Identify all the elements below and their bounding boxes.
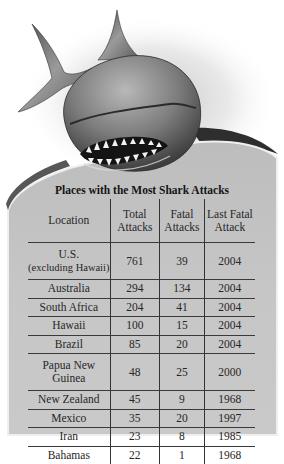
table-row: Brazil 85 20 2004 [28,335,255,354]
cell-location: New Zealand [28,391,110,410]
table-row: Bahamas 22 1 1968 [28,446,255,464]
cell-fatal: 25 [160,354,205,391]
shark-attacks-table: Location TotalAttacks FatalAttacks Last … [28,199,255,464]
cell-location: Papua NewGuinea [28,354,110,391]
cell-fatal: 9 [160,391,205,410]
cell-last: 1997 [204,409,255,428]
table-row: Hawaii 100 15 2004 [28,317,255,336]
cell-last: 2004 [204,317,255,336]
table-row: Australia 294 134 2004 [28,280,255,299]
cell-location: Hawaii [28,317,110,336]
cell-fatal: 15 [160,317,205,336]
cell-last: 1968 [204,446,255,464]
table-row: Mexico 35 20 1997 [28,409,255,428]
cell-total: 35 [110,409,159,428]
cell-location: Iran [28,428,110,447]
cell-last: 2004 [204,243,255,280]
cell-total: 45 [110,391,159,410]
cell-last: 2004 [204,335,255,354]
header-last-fatal-attack: Last FatalAttack [204,199,255,243]
cell-fatal: 8 [160,428,205,447]
cell-last: 1968 [204,391,255,410]
table-row: Iran 23 8 1985 [28,428,255,447]
cell-last: 2004 [204,280,255,299]
cell-last: 1985 [204,428,255,447]
table-row: Papua NewGuinea 48 25 2000 [28,354,255,391]
header-location: Location [28,199,110,243]
cell-total: 85 [110,335,159,354]
cell-location: Brazil [28,335,110,354]
header-fatal-attacks: FatalAttacks [160,199,205,243]
cell-total: 100 [110,317,159,336]
cell-fatal: 1 [160,446,205,464]
cell-location: Australia [28,280,110,299]
cell-fatal: 20 [160,335,205,354]
cell-total: 761 [110,243,159,280]
table-title: Places with the Most Shark Attacks [0,184,284,196]
cell-last: 2000 [204,354,255,391]
table-row: U.S.(excluding Hawaii) 761 39 2004 [28,243,255,280]
cell-total: 23 [110,428,159,447]
cell-location: U.S.(excluding Hawaii) [28,243,110,280]
cell-total: 294 [110,280,159,299]
table-row: New Zealand 45 9 1968 [28,391,255,410]
cell-location: Mexico [28,409,110,428]
cell-fatal: 20 [160,409,205,428]
cell-total: 22 [110,446,159,464]
cell-fatal: 41 [160,298,205,317]
cell-total: 204 [110,298,159,317]
cell-fatal: 39 [160,243,205,280]
cell-total: 48 [110,354,159,391]
cell-location: South Africa [28,298,110,317]
header-total-attacks: TotalAttacks [110,199,159,243]
cell-fatal: 134 [160,280,205,299]
table-row: South Africa 204 41 2004 [28,298,255,317]
cell-last: 2004 [204,298,255,317]
cell-location: Bahamas [28,446,110,464]
